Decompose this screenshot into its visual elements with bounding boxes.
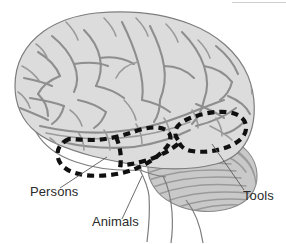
brainstem-anterior-edge <box>140 170 149 242</box>
tools-label: Tools <box>243 188 274 203</box>
animals-label: Animals <box>92 214 139 229</box>
brain-diagram-figure: Persons Animals Tools <box>0 0 286 244</box>
cortex-body <box>15 12 254 169</box>
brain-diagram-svg: Persons Animals Tools <box>0 0 286 244</box>
persons-label: Persons <box>30 184 79 199</box>
cerebral-cortex <box>15 12 254 170</box>
animals-leader-line <box>122 176 142 219</box>
